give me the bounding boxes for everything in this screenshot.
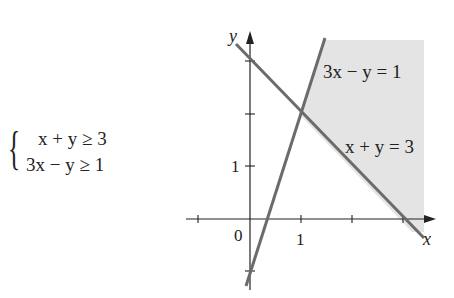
origin-label: 0 xyxy=(234,226,243,245)
x-axis-arrow-icon xyxy=(424,215,436,223)
y-axis-label: y xyxy=(227,26,237,46)
x-axis-label: x xyxy=(422,229,431,249)
label-line1: 3x − y = 1 xyxy=(323,61,401,82)
y-axis-arrow-icon xyxy=(246,31,254,44)
x-tick-label-1: 1 xyxy=(296,230,305,249)
y-tick-label-1: 1 xyxy=(231,157,240,176)
graph: 3x − y = 1 x + y = 3 0 1 1 x y xyxy=(0,0,454,298)
label-line2: x + y = 3 xyxy=(345,136,414,157)
line-3x-minus-y-eq-1 xyxy=(246,38,325,286)
